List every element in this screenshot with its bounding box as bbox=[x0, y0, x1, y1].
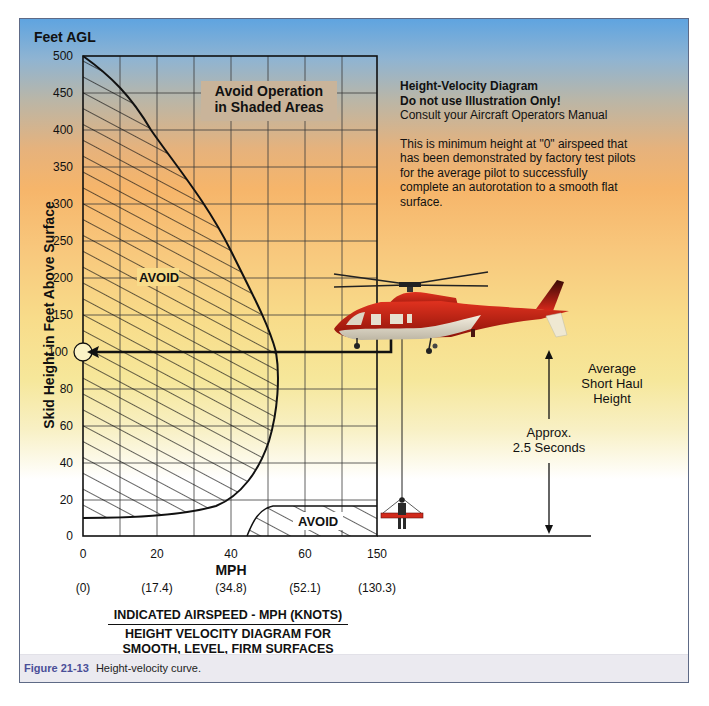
info-paragraph-line: for the average pilot to successfully bbox=[400, 166, 635, 181]
avoid-note-line: Avoid Operation bbox=[201, 83, 337, 99]
avoid-label-lower: AVOID bbox=[298, 514, 338, 529]
info-paragraph-line: surface. bbox=[400, 195, 635, 210]
label-line: Short Haul bbox=[572, 376, 652, 391]
x-tick-knots: (52.1) bbox=[280, 581, 330, 595]
x-tick: 150 bbox=[357, 547, 397, 561]
figure-frame: Feet AGL 500 450 400 350 300 250 200 150… bbox=[19, 18, 689, 683]
arrow-down-icon bbox=[545, 525, 553, 534]
chart-subtitle: HEIGHT VELOCITY DIAGRAM FOR SMOOTH, LEVE… bbox=[108, 627, 348, 657]
info-paragraph-line: This is minimum height at "0" airspeed t… bbox=[400, 137, 635, 152]
x-axis-title: INDICATED AIRSPEED - MPH (KNOTS) bbox=[108, 608, 348, 625]
y-tick: 80 bbox=[60, 382, 73, 396]
rescue-litter-icon bbox=[381, 497, 423, 529]
average-short-haul-label: Average Short Haul Height bbox=[572, 361, 652, 406]
figure-number: Figure 21-13 bbox=[24, 662, 89, 674]
y-tick: 40 bbox=[60, 456, 73, 470]
x-tick-knots: (17.4) bbox=[132, 581, 182, 595]
arrow-up-icon bbox=[545, 350, 553, 359]
subtitle-line: HEIGHT VELOCITY DIAGRAM FOR bbox=[108, 627, 348, 642]
x-tick: 60 bbox=[285, 547, 325, 561]
helicopter-icon bbox=[334, 272, 569, 354]
info-paragraph-line: complete an autorotation to a smooth fla… bbox=[400, 180, 635, 195]
info-consult: Consult your Aircraft Operators Manual bbox=[400, 108, 635, 123]
x-axis-unit: MPH bbox=[211, 562, 251, 578]
label-line: Approx. bbox=[506, 425, 592, 440]
avoid-note-line: in Shaded Areas bbox=[201, 99, 337, 115]
info-paragraph-line: has been demonstrated by factory test pi… bbox=[400, 151, 635, 166]
y-tick: 450 bbox=[53, 86, 73, 100]
y-tick: 60 bbox=[60, 419, 73, 433]
label-line: Height bbox=[572, 391, 652, 406]
y-tick: 0 bbox=[66, 529, 73, 543]
y-axis-label: Skid Height in Feet Above Surface bbox=[41, 195, 57, 435]
caption-text: Height-velocity curve. bbox=[96, 662, 201, 674]
y-tick: 20 bbox=[60, 493, 73, 507]
y-tick: 350 bbox=[53, 160, 73, 174]
label-line: 2.5 Seconds bbox=[506, 440, 592, 455]
approx-seconds-label: Approx. 2.5 Seconds bbox=[506, 425, 592, 455]
x-tick: 0 bbox=[63, 547, 103, 561]
y-axis-title: Feet AGL bbox=[34, 29, 96, 45]
x-tick-knots: (34.8) bbox=[206, 581, 256, 595]
figure-caption: Figure 21-13 Height-velocity curve. bbox=[20, 654, 688, 682]
x-tick: 40 bbox=[211, 547, 251, 561]
x-tick-knots: (0) bbox=[58, 581, 108, 595]
y-tick: 400 bbox=[53, 123, 73, 137]
avoid-label-upper: AVOID bbox=[139, 270, 179, 285]
label-line: Average bbox=[572, 361, 652, 376]
y-tick: 500 bbox=[53, 49, 73, 63]
info-heading: Height-Velocity Diagram bbox=[400, 79, 635, 94]
avoid-operation-note: Avoid Operation in Shaded Areas bbox=[201, 83, 337, 115]
x-tick: 20 bbox=[137, 547, 177, 561]
x-tick-knots: (130.3) bbox=[349, 581, 405, 595]
info-warning: Do not use Illustration Only! bbox=[400, 94, 635, 109]
info-block: Height-Velocity Diagram Do not use Illus… bbox=[400, 79, 635, 209]
